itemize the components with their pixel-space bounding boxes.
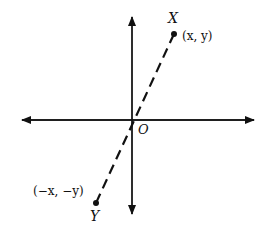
origin-label: O (138, 122, 149, 137)
point-x-marker (171, 31, 177, 37)
point-x-coords: (x, y) (182, 29, 213, 43)
point-y-coords: (−x, −y) (33, 184, 84, 198)
point-y-label: Y (90, 208, 99, 224)
point-y-marker (93, 200, 99, 206)
dashed-segment-xy (96, 34, 174, 203)
point-x-label: X (168, 10, 178, 26)
coordinate-diagram: X (x, y) Y (−x, −y) O (0, 0, 272, 235)
diagram-canvas (0, 0, 272, 235)
